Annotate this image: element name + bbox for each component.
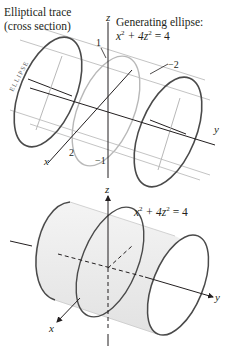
generating-ellipse-equation: x2 + 4z2 = 4 (115, 29, 170, 42)
caption-elliptical-trace: Elliptical trace (4, 6, 71, 19)
top-figure: Elliptical trace (cross section) Generat… (0, 6, 219, 196)
x-axis-label: x (43, 155, 49, 167)
diagram-canvas: Elliptical trace (cross section) Generat… (0, 0, 225, 349)
cylinder-equation: x2 + 4z2 = 4 (133, 205, 188, 218)
y-axis-label: y (214, 291, 220, 303)
z-axis-label: z (105, 11, 111, 23)
bottom-figure: z y x x2 + 4z2 = 4 (10, 183, 221, 346)
trace-crosshairs (28, 79, 186, 134)
y-axis (30, 88, 215, 145)
x-axis (48, 70, 132, 163)
tick-z-neg1: −1 (95, 155, 106, 166)
caption-cross-section: (cross section) (4, 20, 71, 33)
tick-z-1: 1 (96, 37, 101, 48)
left-elliptical-trace (0, 28, 95, 157)
generating-ellipse-title: Generating ellipse: (116, 16, 203, 29)
tick-x-2: 2 (69, 147, 74, 158)
y-axis-label: y (213, 123, 219, 135)
z-axis-label: z (104, 183, 110, 195)
ellipse-label: ELLIPSE (8, 59, 30, 92)
tick-x-neg2: −2 (168, 59, 179, 70)
x-axis-label: x (48, 322, 54, 334)
